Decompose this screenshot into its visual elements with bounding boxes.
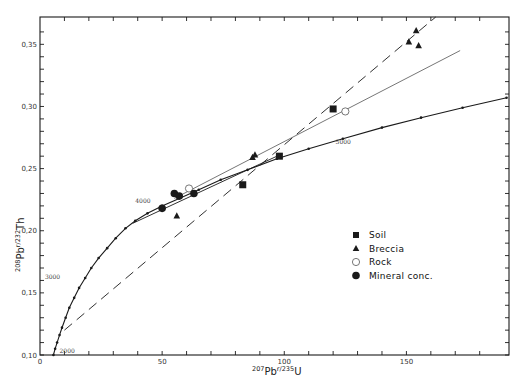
concordia-line <box>53 98 506 355</box>
legend-item-mineral-conc: Mineral conc. <box>352 271 433 281</box>
age-label: 3000 <box>45 273 60 280</box>
axes: 0501001500,100,150,200,250,300,35 <box>21 17 509 366</box>
y-tick-label: 0,35 <box>21 41 37 49</box>
legend-item-rock: Rock <box>352 257 392 267</box>
concordia-dot <box>84 277 87 280</box>
point-soil <box>330 105 337 112</box>
concordia-dot <box>61 326 64 329</box>
fit-line-0 <box>64 17 435 330</box>
x-axis-title-part: U <box>294 366 301 377</box>
concordia-dot <box>58 334 61 337</box>
concordia-dot <box>461 106 464 109</box>
legend: SoilBrecciaRockMineral conc. <box>352 230 433 281</box>
fit-lines <box>64 17 460 330</box>
x-tick-label: 150 <box>400 358 413 366</box>
y-tick-label: 0,10 <box>21 352 37 360</box>
concordia-dot <box>246 169 249 172</box>
x-axis-title-part: 235 <box>282 365 294 373</box>
concordia-dot <box>505 96 508 99</box>
y-tick-label: 0,15 <box>21 289 37 297</box>
plot-frame <box>40 17 509 355</box>
concordia-dot <box>381 126 384 129</box>
y-axis-title-part: 208 <box>14 260 22 272</box>
concordia-dot <box>54 347 57 350</box>
age-label: 5000 <box>336 138 351 145</box>
point-soil <box>276 153 283 160</box>
concordia-dot <box>64 316 67 319</box>
concordia-dot <box>219 178 222 181</box>
concordia-dot <box>106 247 109 250</box>
x-tick-label: 50 <box>158 358 167 366</box>
legend-marker-soil-icon <box>353 232 359 238</box>
x-axis-title-part: 207 <box>252 365 264 373</box>
legend-marker-breccia-icon <box>353 245 360 251</box>
concordia-dot <box>124 227 127 230</box>
concordia-dot <box>307 147 310 150</box>
y-axis-title-part: Pb <box>15 247 26 259</box>
concordia-dot <box>134 219 137 222</box>
legend-label: Soil <box>369 230 386 240</box>
point-mineral-conc <box>190 190 198 198</box>
x-tick-label: 0 <box>38 358 42 366</box>
legend-marker-rock-icon <box>352 258 359 265</box>
y-axis-title: 208Pbr/232Th <box>14 217 26 272</box>
point-soil <box>239 181 246 188</box>
legend-label: Rock <box>369 257 392 267</box>
fit-line-1 <box>174 51 460 199</box>
concordia-dot <box>197 188 200 191</box>
y-axis-title-part: Th <box>15 217 26 230</box>
concordia-curve: 2000300040005000 <box>45 96 508 356</box>
point-mineral-conc <box>175 192 183 200</box>
point-breccia <box>406 38 413 44</box>
y-tick-label: 0,30 <box>21 103 37 111</box>
axis-titles: 207Pbr/235U208Pbr/232Th <box>14 217 301 377</box>
point-breccia <box>173 212 180 218</box>
legend-marker-mineral-conc-icon <box>352 272 360 280</box>
concordia-dot <box>114 237 117 240</box>
point-breccia <box>413 27 420 33</box>
concordia-dot <box>73 297 76 300</box>
legend-label: Breccia <box>369 244 404 254</box>
concordia-dot <box>56 341 59 344</box>
concordia-dot <box>420 116 423 119</box>
point-mineral-conc <box>158 205 166 213</box>
legend-item-breccia: Breccia <box>353 244 405 254</box>
concordia-dot <box>78 287 81 290</box>
fit-line-2 <box>133 156 277 223</box>
y-tick-label: 0,25 <box>21 165 37 173</box>
x-axis-title: 207Pbr/235U <box>252 365 301 377</box>
legend-label: Mineral conc. <box>369 271 433 281</box>
point-rock <box>342 108 349 115</box>
x-axis-title-part: Pb <box>264 366 276 377</box>
point-breccia <box>415 42 422 48</box>
concordia-dot <box>68 306 71 309</box>
concordia-dot <box>90 267 93 270</box>
concordia-dot <box>146 212 149 215</box>
y-axis-title-part: 232 <box>14 230 22 242</box>
concordia-dot <box>97 257 100 260</box>
age-label: 4000 <box>135 197 150 204</box>
age-label: 2000 <box>60 347 75 354</box>
legend-item-soil: Soil <box>353 230 386 240</box>
chart-canvas: 0501001500,100,150,200,250,300,35 200030… <box>0 0 521 389</box>
concordia-dot <box>52 354 55 357</box>
